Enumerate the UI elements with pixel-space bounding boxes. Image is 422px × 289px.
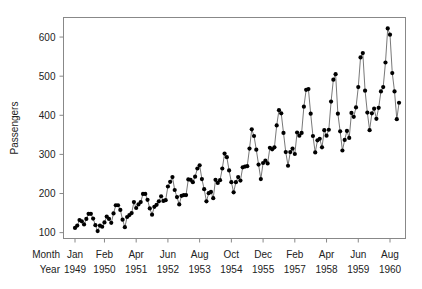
data-point [198,163,202,167]
data-point [116,203,120,207]
x-tick-label-month: Jan [67,249,83,260]
data-point [320,145,324,149]
y-tick-label: 600 [39,32,56,43]
data-point [89,212,93,216]
data-point [361,51,365,55]
data-point [324,134,328,138]
x-tick-label-year: 1952 [157,264,180,275]
data-point [338,129,342,133]
data-point [377,106,381,110]
x-tick-label-year: 1960 [379,264,402,275]
x-tick-label-year: 1958 [315,264,338,275]
data-point [111,211,115,215]
data-point [96,229,100,233]
data-point [91,216,95,220]
data-point [370,111,374,115]
data-point [288,150,292,154]
x-tick-label-month: Apr [319,249,335,260]
data-point [329,100,333,104]
data-point [286,164,290,168]
data-point [347,136,351,140]
data-point [130,211,134,215]
data-point [259,177,263,181]
x-tick-label-year: 1953 [189,264,212,275]
data-point [154,203,158,207]
data-point [379,89,383,93]
data-point [100,225,104,229]
data-point [279,111,283,115]
data-point [392,89,396,93]
data-point [75,223,79,227]
data-point [93,223,97,227]
data-point [102,220,106,224]
x-tick-label-month: Aug [381,249,399,260]
data-point [168,180,172,184]
data-point [109,221,113,225]
data-point [388,33,392,37]
data-point [352,115,356,119]
x-tick-label-month: Feb [286,249,304,260]
x-tick-label-month: Jun [160,249,176,260]
y-tick-label: 400 [39,110,56,121]
data-point [193,175,197,179]
x-axis-row-label-month: Month [32,249,60,260]
data-point [383,60,387,64]
data-point [356,85,360,89]
data-point [368,128,372,132]
x-tick-label-year: 1957 [284,264,307,275]
data-point [184,193,188,197]
data-point [134,206,138,210]
data-point [354,105,358,109]
data-point [272,145,276,149]
data-point [306,87,310,91]
data-point [322,128,326,132]
data-point [390,71,394,75]
data-point [238,179,242,183]
data-point [336,112,340,116]
data-point [132,200,136,204]
x-tick-label-month: Apr [128,249,144,260]
data-point [395,117,399,121]
x-tick-label-year: 1950 [93,264,116,275]
data-point [225,155,229,159]
data-point [202,187,206,191]
data-point [82,222,86,226]
data-point [293,152,297,156]
y-tick-label: 500 [39,71,56,82]
data-point [173,188,177,192]
data-point [145,198,149,202]
data-point [157,199,161,203]
x-tick-label-year: 1955 [252,264,275,275]
x-tick-label-month: Feb [96,249,114,260]
data-point [218,178,222,182]
data-point [164,198,168,202]
data-point [386,26,390,30]
data-point [143,192,147,196]
x-tick-label-year: 1959 [347,264,370,275]
data-point [159,194,163,198]
x-axis-row-label-year: Year [40,264,61,275]
data-point [340,148,344,152]
data-point [290,146,294,150]
y-axis-title: Passengers [9,102,20,155]
data-point [252,134,256,138]
data-point [275,123,279,127]
data-point [300,131,304,135]
x-tick-label-year: 1949 [64,264,87,275]
data-point [363,89,367,93]
data-point [266,161,270,165]
data-point [331,78,335,82]
data-point [232,190,236,194]
data-point [148,206,152,210]
data-point [123,225,127,229]
data-point [309,112,313,116]
data-point [318,137,322,141]
data-point [191,180,195,184]
x-tick-label-month: Dec [254,249,272,260]
data-point [345,129,349,133]
data-point [313,150,317,154]
data-point [365,110,369,114]
data-point [220,166,224,170]
data-point [381,85,385,89]
data-point [227,168,231,172]
